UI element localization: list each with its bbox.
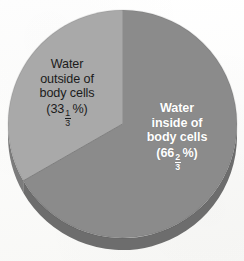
inside-fraction: 23: [175, 153, 181, 172]
outside-percent-whole: 33: [50, 102, 64, 116]
label-outside-line-1: Water: [20, 57, 114, 72]
inside-fraction-numerator: 2: [175, 153, 181, 162]
label-inside-percent: (6623%): [129, 146, 225, 172]
outside-close-paren: ): [84, 102, 88, 116]
slice-label-water-inside: Water inside of body cells (6623%): [129, 101, 225, 172]
inside-percent-sign: %: [183, 146, 194, 160]
outside-percent-sign: %: [73, 102, 84, 116]
inside-close-paren: ): [194, 146, 198, 160]
inside-percent-whole: 66: [160, 146, 174, 160]
outside-fraction: 13: [65, 109, 71, 128]
label-inside-line-3: body cells: [129, 130, 225, 145]
label-outside-line-3: body cells: [20, 86, 114, 101]
label-outside-percent: (3313%): [20, 102, 114, 128]
slice-label-water-outside: Water outside of body cells (3313%): [20, 57, 114, 128]
label-inside-line-1: Water: [129, 101, 225, 116]
outside-fraction-numerator: 1: [65, 109, 71, 118]
outside-fraction-denominator: 3: [65, 118, 71, 128]
label-inside-line-2: inside of: [129, 116, 225, 131]
inside-fraction-denominator: 3: [175, 162, 181, 172]
pie-chart: Water outside of body cells (3313%) Wate…: [0, 0, 244, 261]
label-outside-line-2: outside of: [20, 72, 114, 87]
